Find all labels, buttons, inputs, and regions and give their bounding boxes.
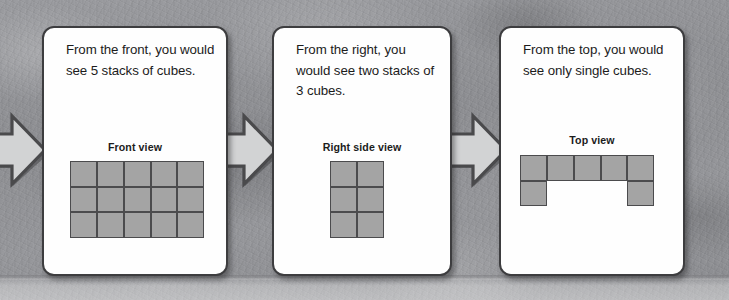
cube-cell-empty (601, 181, 628, 207)
cube-cell (357, 187, 384, 213)
cube-cell-empty (574, 181, 601, 207)
cube-cell-empty (547, 181, 574, 207)
cube-cell (330, 187, 357, 213)
panel-right-description: From the right, you would see two stacks… (296, 40, 440, 102)
panel-top-view: From the top, you would see only single … (499, 26, 685, 276)
cube-cell (97, 187, 124, 213)
background-bottom-band (0, 278, 729, 300)
cube-cell (124, 187, 151, 213)
front-view-cube-grid (71, 162, 205, 239)
cube-cell (151, 187, 178, 213)
cube-cell (124, 161, 151, 187)
cube-cell (627, 181, 654, 207)
cube-cell (520, 181, 547, 207)
cube-cell (70, 212, 97, 238)
cube-cell (627, 155, 654, 181)
panel-right-side-view: From the right, you would see two stacks… (272, 26, 452, 276)
cube-cell (330, 212, 357, 238)
cube-cell (357, 212, 384, 238)
panel-front-description: From the front, you would see 5 stacks o… (66, 40, 216, 81)
cube-cell (70, 187, 97, 213)
cube-cell (151, 161, 178, 187)
right-side-view-cube-grid (331, 162, 385, 239)
cube-cell (177, 212, 204, 238)
cube-cell (601, 155, 628, 181)
cube-cell (547, 155, 574, 181)
cube-cell (357, 161, 384, 187)
cube-cell (70, 161, 97, 187)
panel-front-view: From the front, you would see 5 stacks o… (42, 26, 228, 276)
right-side-view-label: Right side view (274, 141, 450, 153)
top-view-label: Top view (501, 134, 683, 146)
cube-cell (574, 155, 601, 181)
cube-cell (124, 212, 151, 238)
cube-cell (330, 161, 357, 187)
panel-top-description: From the top, you would see only single … (523, 40, 673, 81)
cube-cell (520, 155, 547, 181)
cube-cell (97, 212, 124, 238)
arrow-to-front-view-icon (0, 112, 47, 188)
cube-cell (97, 161, 124, 187)
top-view-cube-grid (521, 156, 655, 207)
cube-cell (151, 212, 178, 238)
illustration-canvas: From the front, you would see 5 stacks o… (0, 0, 729, 300)
cube-cell (177, 161, 204, 187)
front-view-label: Front view (44, 141, 226, 153)
cube-cell (177, 187, 204, 213)
